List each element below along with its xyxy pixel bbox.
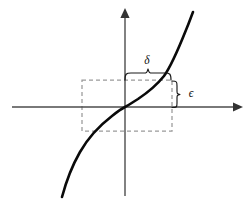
figure-container: δ ϵ [0, 0, 249, 207]
function-curve [62, 12, 193, 197]
y-axis-arrowhead-icon [120, 8, 129, 18]
x-axis-arrowhead-icon [233, 102, 243, 111]
delta-label: δ [144, 54, 150, 66]
limit-diagram-svg: δ ϵ [0, 0, 249, 207]
epsilon-label: ϵ [189, 87, 194, 99]
epsilon-brace [172, 81, 180, 108]
